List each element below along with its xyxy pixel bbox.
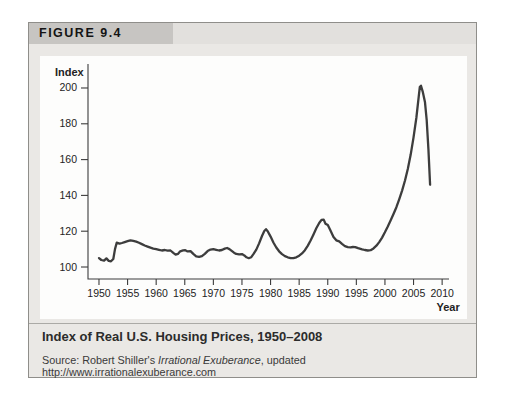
x-tick-label: 1985: [287, 287, 311, 299]
x-tick-label: 1995: [345, 287, 369, 299]
chart-panel: 1001201401601802001950195519601965197019…: [40, 56, 467, 319]
figure-header-bar: FIGURE 9.4: [29, 23, 476, 44]
figure-source: Source: Robert Shiller's Irrational Exub…: [42, 354, 476, 378]
y-tick-label: 160: [59, 153, 77, 165]
x-tick-label: 1980: [259, 287, 283, 299]
y-tick-label: 180: [59, 117, 77, 129]
x-tick-label: 1990: [316, 287, 340, 299]
x-tick-label: 1965: [173, 287, 197, 299]
y-axis-ticks: 100120140160180200: [59, 81, 88, 272]
figure-number-label: FIGURE 9.4: [29, 23, 173, 44]
housing-price-curve: [99, 86, 430, 262]
x-tick-label: 2000: [373, 287, 397, 299]
x-axis-title: Year: [437, 301, 461, 313]
y-tick-label: 200: [59, 81, 77, 93]
figure-card: FIGURE 9.4 10012014016018020019501955196…: [28, 22, 477, 378]
y-tick-label: 100: [59, 261, 77, 273]
caption-divider: [29, 323, 476, 324]
y-tick-label: 140: [59, 189, 77, 201]
x-tick-label: 1960: [144, 287, 168, 299]
page: FIGURE 9.4 10012014016018020019501955196…: [0, 0, 505, 395]
x-tick-label: 1950: [87, 287, 111, 299]
x-tick-label: 2010: [430, 287, 454, 299]
source-book-title: Irrational Exuberance: [158, 354, 261, 366]
x-tick-label: 1970: [202, 287, 226, 299]
x-tick-label: 1955: [116, 287, 140, 299]
y-axis-title: Index: [55, 66, 85, 78]
axes: [88, 64, 449, 279]
figure-caption: Index of Real U.S. Housing Prices, 1950–…: [42, 329, 322, 344]
source-prefix: Source: Robert Shiller's: [42, 354, 158, 366]
x-tick-label: 1975: [230, 287, 254, 299]
x-axis-ticks: 1950195519601965197019751980198519901995…: [87, 279, 454, 299]
y-tick-label: 120: [59, 225, 77, 237]
housing-prices-line-chart: 1001201401601802001950195519601965197019…: [40, 56, 467, 319]
x-tick-label: 2005: [402, 287, 426, 299]
